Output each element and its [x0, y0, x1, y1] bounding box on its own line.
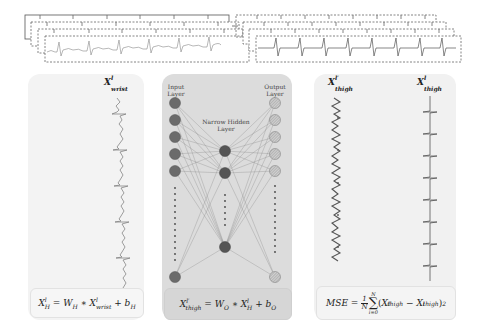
mse-loss-equation: MSE = 1 N N ∑ i=0 (Xl′thigh − Xlthigh)2 [316, 286, 456, 320]
decoder-equation: Xl′thigh = WO ∗ XlH + bO [164, 288, 292, 320]
vertical-reconstructed-ecg [332, 98, 340, 261]
output-layer-nodes [270, 98, 281, 283]
hidden-layer-nodes [220, 146, 231, 253]
panel-graphics [0, 0, 481, 333]
encoder-equation: XlH = WH ∗ Xlwrist + bH [30, 288, 144, 318]
hidden-layer-label: Narrow Hidden Layer [200, 118, 252, 132]
output-layer-label: Output Layer [262, 83, 288, 97]
vertical-target-ecg [423, 96, 437, 281]
input-layer-label: Input Layer [165, 83, 187, 97]
vertical-wrist-ecg [112, 98, 131, 309]
